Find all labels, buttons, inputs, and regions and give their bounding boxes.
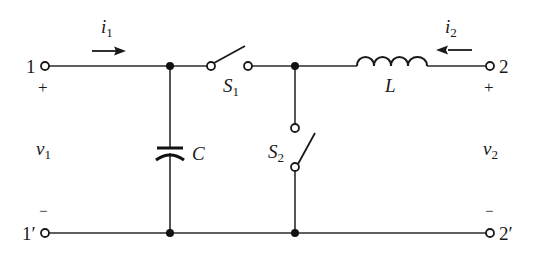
v2-minus-sign: − [485,203,493,219]
switch-s1-label: S1 [223,75,239,99]
s1-subscript: 1 [233,84,240,99]
v1-minus-sign: − [39,203,47,219]
current-i1: i1 [92,16,126,56]
s1-symbol: S [223,75,233,96]
switch-open-icon [207,46,252,70]
node-top-switch2 [291,62,299,70]
current-label-i2: i2 [445,16,457,40]
voltage-label-v1: v1 [36,138,51,162]
arrow-right-icon [92,47,126,56]
terminal-1 [41,62,49,70]
port-label-2: 2 [499,56,509,77]
s2-symbol: S [268,141,278,162]
arrow-left-icon [436,46,472,55]
terminal-2-prime [486,229,494,237]
i1-subscript: 1 [106,25,113,40]
capacitor-c: C [156,143,205,164]
current-label-i1: i1 [101,16,113,40]
inductor-coil-icon [357,57,427,66]
circuit-diagram: 1 1′ 2 2′ + − + − v1 v2 i1 i2 [0,0,545,256]
switch-s1: S1 [207,46,252,99]
port-label-1-prime: 1′ [22,223,36,244]
s2-subscript: 2 [278,150,285,165]
v2-subscript: 2 [491,147,498,162]
terminal-2 [486,62,494,70]
v1-subscript: 1 [44,147,51,162]
inductor-l: L [357,57,427,96]
i2-subscript: 2 [450,25,457,40]
terminal-1-prime [41,229,49,237]
port-label-2-prime: 2′ [499,223,513,244]
node-bottom-switch2 [291,229,299,237]
capacitor-label: C [192,143,205,164]
v1-plus-sign: + [38,78,48,97]
switch-open-icon [291,124,315,171]
voltage-label-v2: v2 [483,138,498,162]
node-top-capacitor [166,62,174,70]
v2-plus-sign: + [484,78,494,97]
inductor-label: L [384,75,396,96]
current-i2: i2 [436,16,472,55]
node-bottom-capacitor [166,229,174,237]
switch-s2-label: S2 [268,141,284,165]
port-label-1: 1 [26,56,36,77]
switch-s2: S2 [268,124,315,171]
